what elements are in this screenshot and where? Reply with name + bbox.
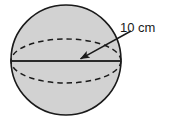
sphere-diagram: 10 cm [0, 0, 169, 120]
sphere-diagram-canvas [0, 0, 169, 120]
dimension-label: 10 cm [120, 20, 155, 35]
sphere-body [11, 5, 121, 115]
